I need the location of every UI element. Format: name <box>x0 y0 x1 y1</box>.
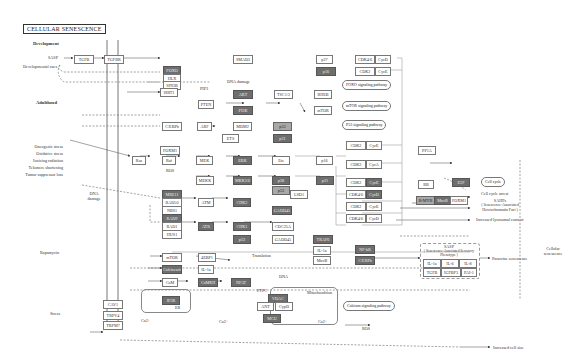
node-cycd-f[interactable]: CycD <box>366 214 382 223</box>
node-ras[interactable]: Ras <box>132 156 146 165</box>
node-arf[interactable]: ARF <box>197 122 212 131</box>
node-mtor[interactable]: mTOR <box>314 106 332 115</box>
node-nfkb[interactable]: NF-kB <box>355 245 375 254</box>
node-cdk46-top[interactable]: CDK4/6 <box>355 55 375 64</box>
node-b-myb[interactable]: B-MYB <box>416 196 435 205</box>
node-akt[interactable]: AKT <box>233 90 253 99</box>
node-smad3[interactable]: SMAD3 <box>233 55 253 64</box>
node-il1a[interactable]: IL-1a <box>313 246 331 255</box>
node-sirt1[interactable]: SIRT1 <box>160 88 178 97</box>
node-sasp-pai1[interactable]: PAI-1 <box>461 268 477 277</box>
node-tgfbr[interactable]: TGFBR <box>104 55 124 64</box>
node-atm[interactable]: ATM <box>198 198 214 207</box>
node-cyca-b[interactable]: CycA <box>366 160 382 169</box>
node-ets2[interactable]: Ets <box>272 156 290 165</box>
node-foxm1-r[interactable]: FOXM1 <box>450 196 468 205</box>
node-cam[interactable]: CaM <box>162 278 178 287</box>
input-rapamycin: Rapamycin <box>40 250 59 255</box>
node-foxm1[interactable]: FOXM1 <box>160 146 180 155</box>
node-trpm7[interactable]: TRPM7 <box>103 321 123 330</box>
node-cyce-e[interactable]: CycE <box>366 202 382 211</box>
node-p16-top[interactable]: p16 <box>316 67 336 76</box>
node-cyce-c[interactable]: CycE <box>366 178 382 187</box>
node-4ebp1[interactable]: 4EBP1 <box>198 253 216 262</box>
link-p53-pathway[interactable]: P53 signaling pathway <box>342 120 386 130</box>
node-cdk2-a[interactable]: CDK2 <box>346 141 366 150</box>
node-e2f[interactable]: E2F <box>452 178 470 187</box>
node-p53-top[interactable]: p53 <box>273 122 292 131</box>
node-chk1[interactable]: CHK1 <box>233 222 251 231</box>
node-tsc12[interactable]: TSC1/2 <box>274 90 293 99</box>
node-il1a-low[interactable]: IL-1a <box>198 265 214 274</box>
node-raf[interactable]: Raf <box>162 156 176 165</box>
node-cav1[interactable]: CAV1 <box>103 300 123 309</box>
link-calcium-pathway[interactable]: Calcium signaling pathway <box>343 301 395 311</box>
node-cdk46-d[interactable]: CDK4/6 <box>346 190 366 199</box>
label-mitochondrion: Mitochondrion <box>307 290 332 295</box>
node-pi3k[interactable]: PI3K <box>233 106 253 115</box>
node-pten[interactable]: PTEN <box>198 100 214 109</box>
node-atr[interactable]: ATR <box>198 222 214 231</box>
node-cdk2-top[interactable]: CDK2 <box>355 67 375 76</box>
node-cdk46-f[interactable]: CDK4/6 <box>346 214 366 223</box>
node-erk[interactable]: ERK <box>233 156 252 165</box>
node-ets[interactable]: ETS <box>222 134 239 143</box>
node-muvb[interactable]: MuvB <box>434 196 451 205</box>
node-hus1[interactable]: HUS1 <box>162 230 182 239</box>
node-sasp-il6[interactable]: IL-6 <box>441 259 459 268</box>
node-rheb[interactable]: RHEB <box>314 90 332 99</box>
node-nfkb-sub[interactable]: MuvB <box>313 256 331 265</box>
label-er: ER <box>175 305 180 310</box>
node-chk2[interactable]: CHK2 <box>233 198 251 207</box>
node-p21-top[interactable]: p21 <box>273 134 292 143</box>
node-traf6[interactable]: TRAF6 <box>313 235 333 244</box>
node-p16-mid[interactable]: p16 <box>316 156 333 165</box>
node-trpv4[interactable]: TRPV4 <box>103 311 123 320</box>
node-mekk[interactable]: MEKK <box>196 176 214 185</box>
node-sasp-il8[interactable]: IL-8 <box>459 259 477 268</box>
node-rb[interactable]: RB <box>418 180 434 189</box>
node-cycd-d[interactable]: CycD <box>366 190 382 199</box>
node-nfat[interactable]: NFAT <box>231 278 251 287</box>
node-cebpb[interactable]: C/EBPb <box>162 122 182 131</box>
node-mdm2[interactable]: MDM2 <box>233 122 252 131</box>
input-stress-5: Tumor suppressor loss <box>20 172 63 177</box>
node-sasp-il1a[interactable]: IL-1a <box>423 259 441 268</box>
section-development: Development <box>33 41 59 46</box>
link-mtor-pathway[interactable]: mTOR signaling pathway <box>342 101 391 111</box>
node-calcineurin[interactable]: Calcineurin <box>162 265 182 274</box>
node-cdc25a[interactable]: CDC25A <box>272 222 294 231</box>
node-p53-mid[interactable]: p53 <box>272 186 290 195</box>
node-cdk2-e[interactable]: CDK2 <box>346 202 366 211</box>
section-adulthood: Adulthood <box>36 100 57 105</box>
node-cdk2-b[interactable]: CDK2 <box>346 160 366 169</box>
link-cell-cycle[interactable]: Cell cycle <box>481 177 505 187</box>
node-cyce-a[interactable]: CycE <box>366 141 382 150</box>
node-tgfb[interactable]: TGFB <box>74 55 94 64</box>
node-p38[interactable]: p38 <box>272 176 290 185</box>
label-dna-small: DNA <box>279 274 288 279</box>
node-cdk2-c[interactable]: CDK2 <box>346 178 366 187</box>
node-p27-top[interactable]: p27 <box>316 55 333 64</box>
sasp-subtitle: ( Senescence-Associated Secretory Phenot… <box>420 249 478 257</box>
node-sasp-tgfb[interactable]: TGFB <box>423 268 441 277</box>
node-cyce-top[interactable]: CycE <box>375 67 391 76</box>
node-cebpb-low[interactable]: C/EBPb <box>355 256 375 265</box>
node-ip3r[interactable]: IP3R <box>162 296 180 305</box>
node-pp1a[interactable]: PP1A <box>418 146 436 155</box>
node-camkii[interactable]: CaMKII <box>198 278 218 287</box>
node-mtor-low[interactable]: mTOR <box>162 253 182 262</box>
node-mkk36[interactable]: MKK3/6 <box>233 176 252 185</box>
node-sasp-igfbp3[interactable]: IGFBP3 <box>441 268 461 277</box>
node-cypd[interactable]: CypD <box>275 302 293 311</box>
node-cycd-top[interactable]: CycD <box>375 55 391 64</box>
node-lsd1[interactable]: LSD1 <box>290 190 308 199</box>
node-gadd45-low[interactable]: GADD45 <box>272 235 294 244</box>
node-p53-low[interactable]: p53 <box>233 235 251 244</box>
node-ant[interactable]: ANT <box>257 302 274 311</box>
node-p21-mid[interactable]: p21 <box>316 176 334 185</box>
node-mcu[interactable]: MCU <box>263 314 281 323</box>
node-mek[interactable]: MEK <box>196 156 213 165</box>
node-gadd45[interactable]: GADD45 <box>272 206 292 215</box>
link-foxo-pathway[interactable]: FOXO signaling pathway <box>342 80 391 90</box>
